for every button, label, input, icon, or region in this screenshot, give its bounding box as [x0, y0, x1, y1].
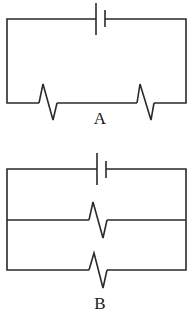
circuit-a-top-wire-right	[105, 19, 186, 103]
circuit-a-label: A	[94, 109, 107, 128]
resistor-icon	[89, 202, 107, 238]
circuit-b: B	[7, 153, 186, 313]
resistor-icon	[137, 84, 154, 120]
circuit-diagram: A B	[0, 0, 192, 314]
battery-icon	[97, 153, 106, 185]
circuit-b-label: B	[94, 294, 105, 313]
resistor-icon	[39, 84, 57, 120]
circuit-a-top-wire-left	[7, 19, 96, 103]
battery-icon	[96, 3, 105, 35]
resistor-icon	[89, 253, 107, 288]
circuit-a: A	[7, 3, 186, 128]
